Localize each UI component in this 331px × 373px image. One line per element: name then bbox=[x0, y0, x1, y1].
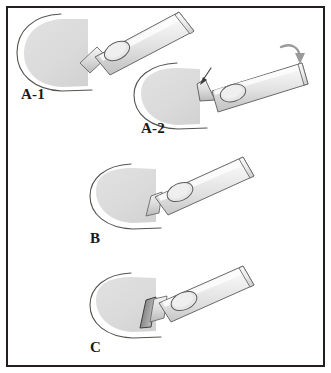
figure-root: A-1 bbox=[0, 0, 331, 373]
blade-tang-a-2 bbox=[197, 79, 215, 101]
panel-label-a-2: A-2 bbox=[141, 120, 165, 136]
panel-a-2: A-2 bbox=[134, 45, 308, 136]
figure-illustration: A-1 bbox=[0, 0, 331, 373]
press-down-arrow-icon bbox=[281, 45, 305, 64]
panel-label-c: C bbox=[90, 339, 101, 355]
panel-b: B bbox=[90, 157, 254, 246]
panel-label-a-1: A-1 bbox=[21, 86, 45, 102]
handle-barrel-a-1 bbox=[95, 12, 194, 75]
blade-a-2 bbox=[141, 68, 200, 125]
panel-label-b: B bbox=[90, 230, 100, 246]
panel-c: C bbox=[90, 266, 254, 355]
blade-a-1 bbox=[24, 19, 88, 87]
